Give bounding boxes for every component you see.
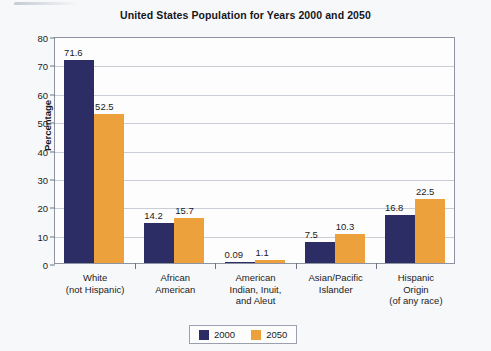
x-category-label-line: Hispanic: [364, 272, 468, 284]
chart-legend: 20002050: [189, 325, 297, 344]
bar-2000: 0.09: [225, 262, 255, 263]
bar-2050: 52.5: [94, 114, 124, 263]
x-tick-mark: [376, 263, 377, 269]
legend-label: 2050: [266, 329, 287, 340]
bar-value-label: 1.1: [256, 247, 269, 258]
y-tick-mark: [50, 123, 55, 124]
bar-value-label: 16.8: [385, 202, 404, 213]
x-tick-mark: [135, 263, 136, 269]
x-tick-mark: [296, 263, 297, 269]
y-tick-label: 80: [37, 33, 48, 44]
y-tick-mark: [50, 236, 55, 237]
chart-figure: United States Population for Years 2000 …: [0, 0, 491, 351]
bar-value-label: 22.5: [416, 186, 435, 197]
chart-title: United States Population for Years 2000 …: [0, 9, 491, 21]
y-tick-label: 10: [37, 231, 48, 242]
bar-2050: 10.3: [335, 234, 365, 263]
y-tick-label: 20: [37, 203, 48, 214]
bar-2000: 16.8: [385, 215, 415, 263]
legend-label: 2000: [214, 329, 235, 340]
bar-value-label: 10.3: [336, 221, 355, 232]
y-tick-label: 30: [37, 174, 48, 185]
bar-group: 0.091.1: [225, 38, 285, 263]
y-tick-mark: [50, 179, 55, 180]
y-tick-mark: [50, 38, 55, 39]
x-tick-mark: [215, 263, 216, 269]
bar-2050: 1.1: [255, 260, 285, 263]
y-tick-label: 50: [37, 118, 48, 129]
legend-swatch-icon: [199, 330, 209, 340]
y-tick-label: 60: [37, 89, 48, 100]
bar-2000: 71.6: [64, 60, 94, 263]
bar-2050: 15.7: [174, 218, 204, 263]
bar-group: 71.652.5: [64, 38, 124, 263]
y-tick-mark: [50, 151, 55, 152]
scan-artifact: [14, 2, 76, 5]
y-tick-mark: [50, 66, 55, 67]
plot-area: Percentage 01020304050607080 71.652.514.…: [54, 37, 455, 264]
bar-group: 16.822.5: [385, 38, 445, 263]
y-tick-label: 40: [37, 146, 48, 157]
bar-2000: 7.5: [305, 242, 335, 263]
y-tick-label: 70: [37, 61, 48, 72]
x-category-label-line: Origin: [364, 284, 468, 296]
bar-value-label: 14.2: [144, 210, 163, 221]
legend-swatch-icon: [251, 330, 261, 340]
y-tick-mark: [50, 94, 55, 95]
bar-value-label: 7.5: [305, 229, 318, 240]
legend-item-2050[interactable]: 2050: [251, 329, 287, 340]
bar-value-label: 15.7: [175, 205, 194, 216]
bar-value-label: 52.5: [95, 101, 114, 112]
bar-group: 7.510.3: [305, 38, 365, 263]
bar-group: 14.215.7: [144, 38, 204, 263]
y-tick-mark: [50, 265, 55, 266]
bar-value-label: 71.6: [64, 47, 83, 58]
bar-2050: 22.5: [415, 199, 445, 263]
y-tick-mark: [50, 208, 55, 209]
bar-2000: 14.2: [144, 223, 174, 263]
x-category-label-line: (of any race): [364, 295, 468, 307]
x-category-label-line: and Aleut: [204, 295, 308, 307]
y-tick-label: 0: [43, 260, 48, 271]
legend-item-2000[interactable]: 2000: [199, 329, 235, 340]
x-category-label: HispanicOrigin(of any race): [364, 272, 468, 307]
bar-value-label: 0.09: [225, 249, 244, 260]
